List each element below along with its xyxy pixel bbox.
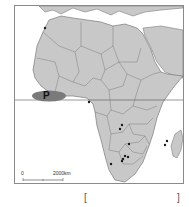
scale-distance-label: 2000km: [53, 170, 71, 176]
answer-bracket-close: ]: [177, 192, 180, 203]
map-frame: P 0 2000km: [14, 5, 184, 184]
p-label: P: [43, 90, 50, 101]
africa-map: [15, 6, 183, 183]
answer-bracket-open: [: [84, 192, 87, 203]
scale-zero-label: 0: [21, 170, 24, 176]
